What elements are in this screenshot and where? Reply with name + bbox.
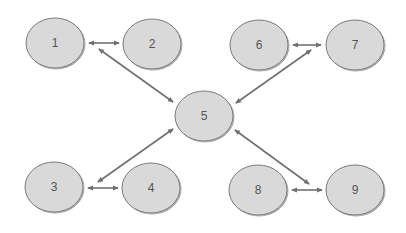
node-6: 6 [230, 20, 288, 70]
network-diagram: 1 2 3 4 5 6 7 8 [0, 0, 406, 233]
node-9: 9 [326, 165, 384, 215]
node-label: 6 [256, 38, 263, 52]
nodes: 1 2 3 4 5 6 7 8 [25, 18, 384, 215]
node-label: 9 [352, 183, 359, 197]
node-3: 3 [25, 162, 83, 212]
node-label: 2 [149, 37, 156, 51]
node-label: 1 [52, 36, 59, 50]
node-label: 8 [255, 183, 262, 197]
node-4: 4 [122, 163, 180, 213]
node-1: 1 [26, 18, 84, 68]
node-label: 4 [148, 181, 155, 195]
node-label: 3 [51, 180, 58, 194]
node-5: 5 [175, 91, 233, 141]
node-label: 5 [201, 109, 208, 123]
node-7: 7 [326, 20, 384, 70]
node-label: 7 [352, 38, 359, 52]
node-8: 8 [229, 165, 287, 215]
node-2: 2 [123, 19, 181, 69]
